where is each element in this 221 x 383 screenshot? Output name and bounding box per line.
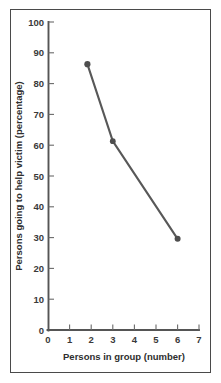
x-axis-label: Persons in group (number) (63, 351, 185, 362)
x-tick-label-6: 6 (175, 334, 180, 345)
y-tick-label-80: 80 (33, 78, 44, 89)
x-tick-label-4: 4 (132, 334, 138, 345)
y-tick-label-90: 90 (33, 47, 44, 58)
y-tick-label-70: 70 (33, 109, 44, 120)
x-tick-label-1: 1 (67, 334, 73, 345)
y-tick-label-0: 0 (39, 325, 44, 336)
x-tick-label-5: 5 (153, 334, 159, 345)
x-tick-label-7: 7 (196, 334, 201, 345)
x-tick-label-3: 3 (110, 334, 115, 345)
chart-figure: 100 90 80 70 60 50 40 30 20 10 0 0 1 2 3… (0, 0, 221, 383)
y-axis-label: Persons going to help victim (percentage… (13, 81, 24, 271)
y-tick-label-60: 60 (33, 140, 44, 151)
y-tick-label-40: 40 (33, 201, 44, 212)
data-point-marker (110, 138, 116, 144)
y-tick-label-100: 100 (28, 17, 44, 28)
data-point-marker (175, 236, 181, 242)
data-point-marker (84, 61, 90, 67)
x-tick-label-2: 2 (89, 334, 94, 345)
y-tick-label-50: 50 (33, 171, 44, 182)
y-tick-label-30: 30 (33, 232, 44, 243)
y-tick-label-20: 20 (33, 263, 44, 274)
data-series-line (87, 64, 177, 239)
x-tick-label-0: 0 (45, 334, 50, 345)
chart-plot-area: 100 90 80 70 60 50 40 30 20 10 0 0 1 2 3… (0, 0, 221, 383)
y-tick-label-10: 10 (33, 294, 44, 305)
